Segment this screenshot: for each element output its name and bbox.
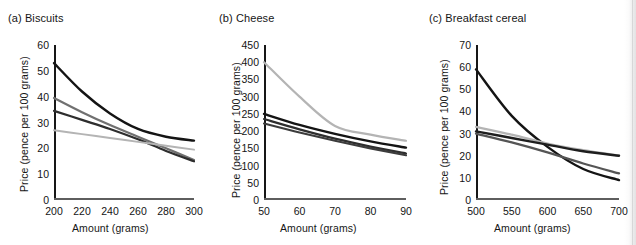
plot-area-a: 0102030405060 200220240260280300 [54, 45, 194, 200]
x-tick-label: 300 [185, 206, 203, 217]
y-tick-label: 40 [459, 106, 471, 117]
series-line-curve-2 [54, 98, 194, 160]
y-tick-label: 10 [37, 169, 49, 180]
x-axis-label-c: Amount (grams) [494, 222, 571, 234]
x-tick-label: 70 [329, 206, 341, 217]
series-line-curve-1 [476, 69, 619, 180]
figure-sheet: (a) Biscuits Price (pence per 100 grams)… [0, 0, 636, 245]
series-lines-c [476, 45, 619, 200]
y-tick-label: 300 [241, 91, 259, 102]
y-tick-label: 0 [253, 195, 259, 206]
panel-title-a: (a) Biscuits [8, 12, 64, 24]
x-tick-label: 60 [294, 206, 306, 217]
y-tick-label: 60 [37, 40, 49, 51]
y-tick-label: 30 [37, 117, 49, 128]
y-tick-label: 40 [37, 91, 49, 102]
chart-panel-breakfast-cereal: (c) Breakfast cereal Price (pence per 10… [420, 0, 636, 245]
x-tick-label: 650 [574, 206, 592, 217]
panel-title-c: (c) Breakfast cereal [429, 12, 526, 24]
y-axis-label-b: Price (pence per 100 grams) [230, 62, 242, 198]
series-line-curve-1 [54, 63, 194, 141]
chart-panel-cheese: (b) Cheese Price (pence per 100 grams) A… [212, 0, 420, 245]
y-tick-label: 20 [37, 143, 49, 154]
y-tick-label: 250 [241, 109, 259, 120]
chart-panel-biscuits: (a) Biscuits Price (pence per 100 grams)… [0, 0, 212, 245]
series-lines-b [264, 45, 406, 200]
x-tick-label: 200 [45, 206, 63, 217]
series-line-curve-3 [54, 111, 194, 161]
x-tick-label: 500 [467, 206, 485, 217]
x-axis-label-b: Amount (grams) [280, 222, 357, 234]
plot-area-b: 050100150200250300350400450 5060708090 [264, 45, 406, 200]
y-tick-label: 350 [241, 74, 259, 85]
y-tick-label: 0 [43, 195, 49, 206]
y-tick-label: 450 [241, 40, 259, 51]
y-tick-label: 20 [459, 150, 471, 161]
x-tick-label: 220 [73, 206, 91, 217]
y-tick-label: 100 [241, 160, 259, 171]
series-line-curve-2 [264, 114, 406, 148]
y-tick-label: 150 [241, 143, 259, 154]
series-lines-a [54, 45, 194, 200]
y-tick-label: 50 [37, 66, 49, 77]
y-tick-label: 30 [459, 128, 471, 139]
y-axis-label-a: Price (pence per 100 grams) [18, 56, 30, 192]
x-tick-label: 550 [503, 206, 521, 217]
y-tick-label: 50 [247, 178, 259, 189]
y-tick-label: 70 [459, 40, 471, 51]
x-tick-label: 50 [258, 206, 270, 217]
y-tick-label: 60 [459, 62, 471, 73]
y-tick-label: 10 [459, 173, 471, 184]
y-axis-label-c: Price (pence per 100 grams) [438, 59, 450, 195]
y-tick-label: 200 [241, 126, 259, 137]
x-tick-label: 260 [129, 206, 147, 217]
panel-title-b: (b) Cheese [219, 12, 274, 24]
y-tick-label: 400 [241, 57, 259, 68]
x-tick-label: 280 [157, 206, 175, 217]
x-tick-label: 600 [539, 206, 557, 217]
x-axis-label-a: Amount (grams) [72, 222, 149, 234]
y-tick-label: 0 [465, 195, 471, 206]
x-tick-label: 90 [400, 206, 412, 217]
y-tick-label: 50 [459, 84, 471, 95]
x-tick-label: 700 [610, 206, 628, 217]
x-tick-label: 240 [101, 206, 119, 217]
plot-area-c: 010203040506070 500550600650700 [476, 45, 619, 200]
x-tick-label: 80 [365, 206, 377, 217]
